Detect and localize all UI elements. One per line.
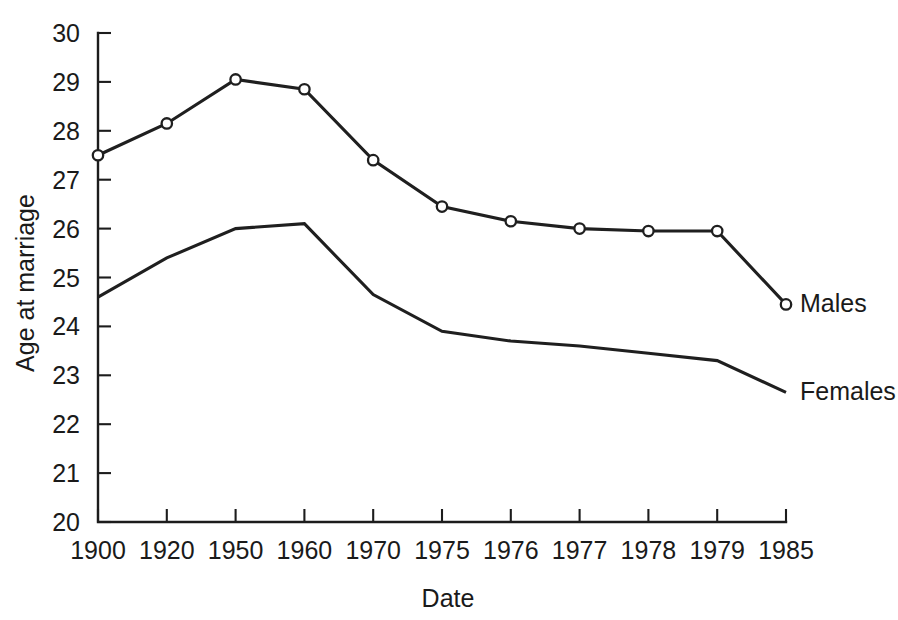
y-tick-label-26: 26 <box>52 215 80 243</box>
series-label-females: Females <box>800 377 896 405</box>
x-tick-label-1960: 1960 <box>277 536 333 564</box>
data-point-males-1979 <box>712 226 722 236</box>
x-tick-label-1900: 1900 <box>70 536 126 564</box>
y-tick-label-24: 24 <box>52 312 80 340</box>
data-point-males-1976 <box>506 216 516 226</box>
data-point-males-1978 <box>643 226 653 236</box>
x-tick-label-1976: 1976 <box>483 536 539 564</box>
axis-lines <box>98 33 786 522</box>
series-label-males: Males <box>800 289 867 317</box>
line-chart-plot: 2021222324252627282930 19001920195019601… <box>0 0 898 620</box>
y-axis-tick-labels: 2021222324252627282930 <box>52 19 80 536</box>
data-point-males-1950 <box>230 74 240 84</box>
y-tick-label-20: 20 <box>52 508 80 536</box>
x-axis-ticks <box>98 509 786 522</box>
x-tick-label-1985: 1985 <box>758 536 814 564</box>
y-tick-label-25: 25 <box>52 264 80 292</box>
y-tick-label-21: 21 <box>52 459 80 487</box>
series-line-females <box>98 224 786 393</box>
y-tick-label-28: 28 <box>52 117 80 145</box>
y-tick-label-27: 27 <box>52 166 80 194</box>
data-point-markers <box>93 74 791 309</box>
chart-figure: 2021222324252627282930 19001920195019601… <box>0 0 898 620</box>
x-tick-label-1975: 1975 <box>414 536 470 564</box>
y-tick-label-29: 29 <box>52 68 80 96</box>
data-point-males-1975 <box>437 201 447 211</box>
data-point-males-1920 <box>162 118 172 128</box>
y-axis-ticks <box>98 33 111 522</box>
x-tick-label-1950: 1950 <box>208 536 264 564</box>
y-tick-label-30: 30 <box>52 19 80 47</box>
x-tick-label-1920: 1920 <box>139 536 195 564</box>
x-tick-label-1978: 1978 <box>621 536 677 564</box>
x-tick-label-1977: 1977 <box>552 536 608 564</box>
x-axis-tick-labels: 1900192019501960197019751976197719781979… <box>70 536 814 564</box>
data-point-males-1960 <box>299 84 309 94</box>
x-tick-label-1979: 1979 <box>689 536 745 564</box>
data-point-males-1970 <box>368 155 378 165</box>
data-point-males-1977 <box>574 223 584 233</box>
series-end-labels: MalesFemales <box>800 289 896 405</box>
x-axis-title: Date <box>422 584 475 612</box>
y-tick-label-23: 23 <box>52 361 80 389</box>
y-tick-label-22: 22 <box>52 410 80 438</box>
series-line-males <box>98 79 786 304</box>
data-point-males-1900 <box>93 150 103 160</box>
data-point-males-1985 <box>781 299 791 309</box>
x-tick-label-1970: 1970 <box>345 536 401 564</box>
data-series-group <box>98 79 786 392</box>
y-axis-title: Age at marriage <box>11 194 39 372</box>
